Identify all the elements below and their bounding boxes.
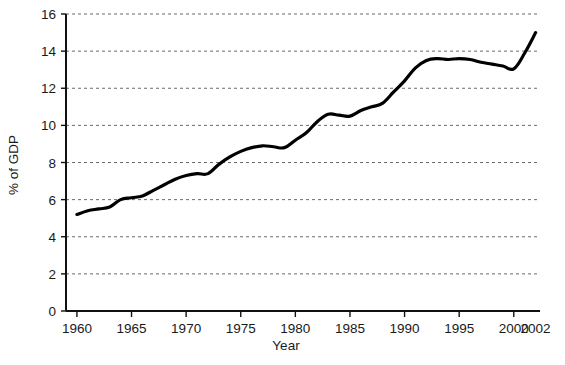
x-axis-tick-label: 1970 bbox=[171, 321, 201, 336]
x-axis-title: Year bbox=[272, 338, 300, 353]
y-axis-tick-label: 12 bbox=[41, 81, 56, 96]
x-axis-tick-label: 2002 bbox=[521, 321, 551, 336]
y-axis-tick-label: 16 bbox=[41, 7, 56, 22]
x-axis-tick-label: 1965 bbox=[117, 321, 147, 336]
x-axis-tick-label: 1985 bbox=[335, 321, 365, 336]
y-axis-tick-label: 0 bbox=[48, 304, 56, 319]
y-axis-tick-label: 14 bbox=[41, 44, 57, 59]
y-axis-title: % of GDP bbox=[6, 135, 21, 195]
y-axis-tick-label: 4 bbox=[48, 230, 56, 245]
line-chart: 1960196519701975198019851990199520002002… bbox=[0, 0, 565, 365]
x-axis-tick-label: 1990 bbox=[390, 321, 420, 336]
x-axis-tick-label: 1960 bbox=[62, 321, 92, 336]
x-axis-tick-label: 1995 bbox=[444, 321, 474, 336]
chart-container: 1960196519701975198019851990199520002002… bbox=[0, 0, 565, 365]
y-axis-tick-label: 2 bbox=[48, 267, 56, 282]
x-axis-tick-label: 1975 bbox=[226, 321, 256, 336]
y-axis-tick-label: 10 bbox=[41, 118, 56, 133]
y-axis-tick-label: 8 bbox=[48, 156, 56, 171]
y-axis-tick-label: 6 bbox=[48, 193, 56, 208]
x-axis-tick-label: 1980 bbox=[280, 321, 310, 336]
